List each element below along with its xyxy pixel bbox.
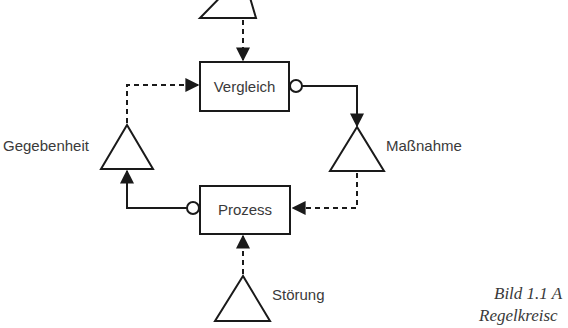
gegebenheit-label: Gegebenheit xyxy=(3,137,90,154)
top-input-triangle xyxy=(200,0,256,18)
edge-gegebenheit-to-vergleich xyxy=(127,85,198,123)
vergleich-node: Vergleich xyxy=(200,62,289,111)
prozess-output-circle xyxy=(187,202,199,214)
edge-prozess-to-gegebenheit xyxy=(127,171,187,208)
figure-caption-line2: Regelkreisc xyxy=(479,306,558,326)
figure-caption-line1: Bild 1.1 A xyxy=(494,284,562,304)
prozess-node: Prozess xyxy=(200,186,290,234)
vergleich-label: Vergleich xyxy=(214,78,276,95)
edge-vergleich-to-massnahme xyxy=(302,86,357,126)
control-loop-diagram: Vergleich Maßnahme Prozess Gegebenheit S… xyxy=(0,0,568,328)
vergleich-output-circle xyxy=(290,80,302,92)
massnahme-label: Maßnahme xyxy=(386,137,462,154)
prozess-label: Prozess xyxy=(218,201,272,218)
stoerung-node: Störung xyxy=(215,276,325,321)
stoerung-label: Störung xyxy=(272,286,325,303)
massnahme-node: Maßnahme xyxy=(330,127,462,171)
gegebenheit-node: Gegebenheit xyxy=(3,125,153,169)
edge-massnahme-to-prozess xyxy=(293,173,357,208)
